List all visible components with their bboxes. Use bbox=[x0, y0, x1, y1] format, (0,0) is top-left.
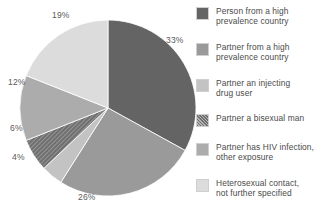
legend-swatch-icon bbox=[196, 7, 209, 20]
legend-item-label: Partner from a high prevalence country bbox=[216, 42, 290, 63]
legend-swatch-icon bbox=[196, 43, 209, 56]
legend-item-label: Partner a bisexual man bbox=[216, 113, 304, 123]
chart-legend: Person from a high prevalence countryPar… bbox=[196, 6, 326, 209]
legend-swatch-icon bbox=[196, 114, 209, 127]
legend-item[interactable]: Partner has HIV infection, other exposur… bbox=[196, 142, 326, 163]
legend-swatch-icon bbox=[196, 179, 209, 192]
legend-item-label: Partner has HIV infection, other exposur… bbox=[216, 142, 314, 163]
legend-swatch-icon bbox=[196, 143, 209, 156]
legend-item[interactable]: Person from a high prevalence country bbox=[196, 6, 326, 27]
pie-percentage-label: 4% bbox=[12, 152, 25, 162]
legend-item[interactable]: Partner from a high prevalence country bbox=[196, 42, 326, 63]
legend-item-label: Heterosexual contact, not further specif… bbox=[216, 178, 299, 199]
pie-chart-plot-area: 33%26%4%6%12%19% bbox=[0, 0, 196, 213]
pie-percentage-label: 6% bbox=[10, 123, 23, 133]
legend-item[interactable]: Partner an injecting drug user bbox=[196, 78, 326, 99]
legend-swatch-icon bbox=[196, 79, 209, 92]
legend-item-label: Person from a high prevalence country bbox=[216, 6, 289, 27]
pie-percentage-label: 19% bbox=[52, 10, 70, 20]
legend-item[interactable]: Heterosexual contact, not further specif… bbox=[196, 178, 326, 199]
pie-percentage-label: 26% bbox=[78, 192, 96, 202]
pie-percentage-label: 33% bbox=[166, 35, 184, 45]
pie-percentage-label: 12% bbox=[8, 77, 26, 87]
pie-chart-figure: 33%26%4%6%12%19% Person from a high prev… bbox=[0, 0, 326, 213]
legend-item-label: Partner an injecting drug user bbox=[216, 78, 290, 99]
pie-slice-group bbox=[20, 20, 196, 196]
legend-item[interactable]: Partner a bisexual man bbox=[196, 113, 326, 127]
pie-chart-svg bbox=[0, 0, 196, 213]
